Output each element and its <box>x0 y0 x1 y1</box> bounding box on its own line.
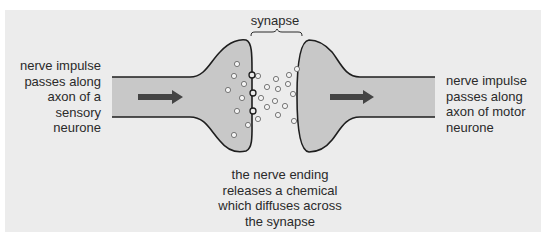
vesicle-icon <box>264 84 269 89</box>
vesicle-icon <box>294 66 299 71</box>
vesicle-icon <box>245 122 250 127</box>
vesicle-icon <box>291 118 296 123</box>
vesicle-icon <box>290 91 295 96</box>
vesicle-icon <box>275 112 280 117</box>
label-line: neurone <box>0 120 101 136</box>
label-line: which diffuses across <box>190 198 370 214</box>
vesicle-icon <box>241 81 246 86</box>
label-line: passes along <box>446 89 550 105</box>
synapse-label: synapse <box>245 13 305 29</box>
motor-neurone-label: nerve impulse passes along axon of motor… <box>446 73 550 135</box>
vesicle-icon <box>282 103 287 108</box>
label-line: the nerve ending <box>190 167 370 183</box>
sensory-neurone-label: nerve impulse passes along axon of a sen… <box>0 58 101 136</box>
label-line: passes along <box>0 74 101 90</box>
chemical-release-caption: the nerve ending releases a chemical whi… <box>190 167 370 229</box>
label-line: neurone <box>446 120 550 136</box>
fusing-vesicle-icon <box>249 72 255 78</box>
vesicle-icon <box>258 95 263 100</box>
vesicle-icon <box>286 72 291 77</box>
label-line: axon of a <box>0 89 101 105</box>
label-line: nerve impulse <box>446 73 550 89</box>
label-line: sensory <box>0 105 101 121</box>
vesicle-icon <box>231 73 236 78</box>
vesicle-icon <box>255 73 260 78</box>
vesicle-icon <box>234 61 239 66</box>
fusing-vesicle-icon <box>250 90 256 96</box>
vesicle-icon <box>231 132 236 137</box>
vesicle-icon <box>273 76 278 81</box>
label-line: nerve impulse <box>0 58 101 74</box>
synapse-bracket <box>251 29 302 36</box>
vesicle-icon <box>275 86 280 91</box>
vesicle-icon <box>239 95 244 100</box>
label-line: the synapse <box>190 214 370 230</box>
vesicle-icon <box>225 87 230 92</box>
vesicle-icon <box>285 81 290 86</box>
label-line: axon of motor <box>446 104 550 120</box>
vesicle-icon <box>272 98 277 103</box>
fusing-vesicle-icon <box>250 108 256 114</box>
label-line: releases a chemical <box>190 183 370 199</box>
vesicle-icon <box>234 108 239 113</box>
vesicle-icon <box>264 104 269 109</box>
vesicle-icon <box>255 116 260 121</box>
